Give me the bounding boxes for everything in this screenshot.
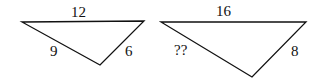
large-triangle-top-label: 16 xyxy=(216,4,231,19)
large-triangle-left-label: ?? xyxy=(174,43,187,58)
small-triangle-right-label: 6 xyxy=(125,44,133,59)
large-triangle-right-label: 8 xyxy=(291,44,299,59)
similar-triangles-diagram: 12 9 6 16 ?? 8 xyxy=(0,0,324,79)
small-triangle-top-label: 12 xyxy=(71,5,86,20)
triangles-canvas xyxy=(0,0,324,79)
small-triangle-left-label: 9 xyxy=(50,44,58,59)
